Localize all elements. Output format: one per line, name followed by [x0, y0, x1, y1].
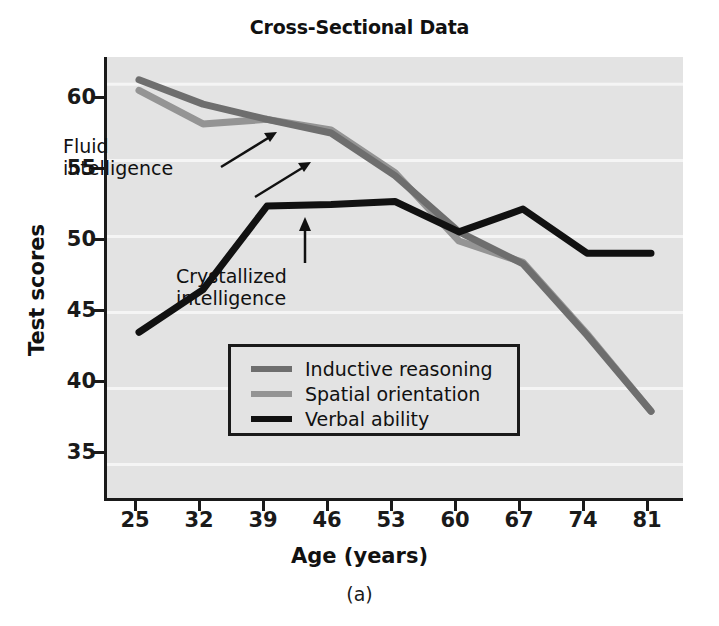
legend-item-spatial-orientation[interactable]: Spatial orientation — [231, 381, 517, 406]
chart-title: Cross-Sectional Data — [0, 16, 719, 38]
xtick-label-74: 74 — [553, 508, 613, 532]
chart-figure: Cross-Sectional Data — [0, 0, 719, 626]
ytick-label-60: 60 — [36, 85, 96, 109]
annotation-arrow-fluid-2 — [255, 162, 311, 197]
xtick-label-81: 81 — [617, 508, 677, 532]
legend-swatch-inductive-reasoning — [251, 366, 292, 372]
annotation-fluid-intelligence: Fluid intelligence — [63, 135, 193, 180]
xtick-label-46: 46 — [297, 508, 357, 532]
legend-label-inductive-reasoning: Inductive reasoning — [305, 358, 493, 380]
xtick-label-60: 60 — [425, 508, 485, 532]
xtick-label-32: 32 — [169, 508, 229, 532]
legend-item-inductive-reasoning[interactable]: Inductive reasoning — [231, 356, 517, 381]
xtick-label-25: 25 — [105, 508, 165, 532]
xtick-label-53: 53 — [361, 508, 421, 532]
annotation-arrow-crystallized — [299, 217, 311, 263]
legend-label-verbal-ability: Verbal ability — [305, 408, 429, 430]
legend-item-verbal-ability[interactable]: Verbal ability — [231, 406, 517, 431]
y-axis-label: Test scores — [25, 190, 49, 390]
ytick-label-35: 35 — [36, 440, 96, 464]
x-axis-label: Age (years) — [0, 544, 719, 568]
xtick-label-39: 39 — [233, 508, 293, 532]
legend-label-spatial-orientation: Spatial orientation — [305, 383, 480, 405]
legend-swatch-verbal-ability — [251, 416, 292, 422]
chart-legend: Inductive reasoning Spatial orientation … — [228, 344, 520, 436]
xtick-label-67: 67 — [489, 508, 549, 532]
figure-caption: (a) — [0, 583, 719, 605]
legend-swatch-spatial-orientation — [251, 391, 292, 397]
annotation-crystallized-intelligence: Crystallized intelligence — [176, 265, 346, 310]
